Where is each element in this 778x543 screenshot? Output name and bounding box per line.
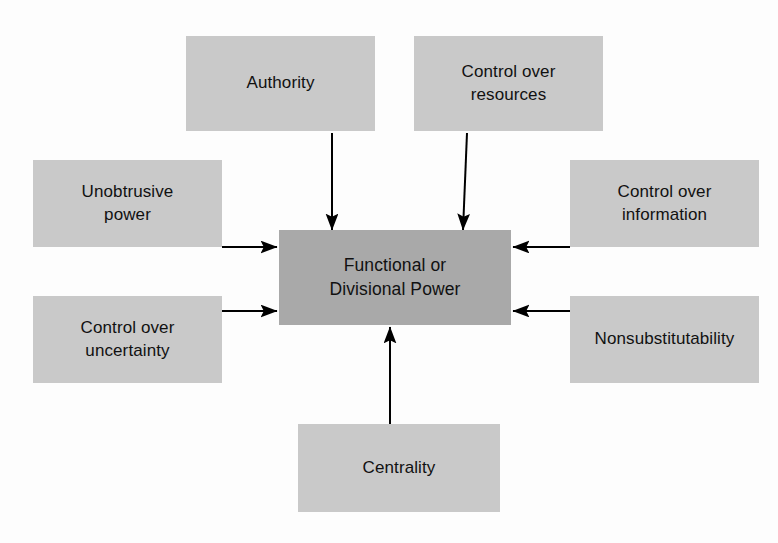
- node-authority[interactable]: Authority: [186, 36, 375, 131]
- node-nonsubstitutability[interactable]: Nonsubstitutability: [570, 296, 759, 383]
- node-functional-or-divisional-power[interactable]: Functional or Divisional Power: [279, 230, 511, 325]
- node-control-over-information-label: Control over information: [612, 181, 718, 227]
- node-nonsubstitutability-label: Nonsubstitutability: [589, 328, 741, 351]
- node-control-over-information[interactable]: Control over information: [570, 160, 759, 247]
- node-unobtrusive-power-label: Unobtrusive power: [76, 181, 180, 227]
- node-control-over-resources[interactable]: Control over resources: [414, 36, 603, 131]
- resources-to-center: [463, 133, 467, 230]
- node-authority-label: Authority: [241, 72, 321, 95]
- node-control-over-uncertainty-label: Control over uncertainty: [75, 317, 181, 363]
- node-control-over-uncertainty[interactable]: Control over uncertainty: [33, 296, 222, 383]
- node-unobtrusive-power[interactable]: Unobtrusive power: [33, 160, 222, 247]
- node-functional-or-divisional-power-label: Functional or Divisional Power: [324, 254, 467, 301]
- node-control-over-resources-label: Control over resources: [456, 61, 562, 107]
- node-centrality[interactable]: Centrality: [298, 424, 500, 512]
- node-centrality-label: Centrality: [357, 457, 442, 480]
- diagram-canvas: Authority Control over resources Unobtru…: [0, 0, 778, 543]
